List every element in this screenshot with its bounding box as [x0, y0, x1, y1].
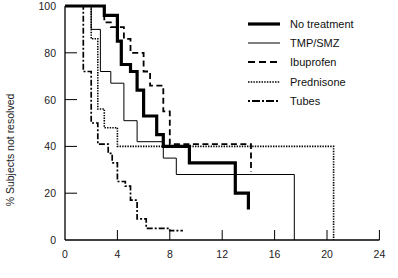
- legend-swatch-dash-dot-icon: [248, 98, 280, 104]
- legend-item-tmp-smz: TMP/SMZ: [248, 33, 354, 52]
- x-tick-label: 16: [269, 248, 281, 260]
- y-tick-label: 100: [38, 0, 56, 12]
- legend-label: Prednisone: [290, 76, 346, 88]
- x-tick-label: 20: [321, 248, 333, 260]
- legend-label: Tubes: [290, 95, 320, 107]
- y-tick-label: 40: [44, 140, 56, 152]
- legend-swatch-dotted-icon: [248, 79, 280, 85]
- legend-swatch-dashed-icon: [248, 59, 280, 65]
- legend-label: TMP/SMZ: [290, 37, 340, 49]
- y-tick-label: 80: [44, 47, 56, 59]
- x-tick-label: 12: [216, 248, 228, 260]
- y-tick-label: 0: [50, 234, 56, 246]
- x-tick-label: 8: [167, 248, 173, 260]
- legend: No treatment TMP/SMZ Ibuprofen Prednison…: [248, 14, 354, 110]
- series-ibuprofen: [65, 6, 251, 172]
- legend-swatch-thin-solid-icon: [248, 40, 280, 46]
- legend-item-prednisone: Prednisone: [248, 72, 354, 91]
- legend-item-ibuprofen: Ibuprofen: [248, 53, 354, 72]
- legend-label: No treatment: [290, 18, 354, 30]
- x-tick-label: 0: [62, 248, 68, 260]
- series-no-treatment: [65, 6, 248, 210]
- x-tick-label: 24: [374, 248, 386, 260]
- x-tick-label: 4: [114, 248, 120, 260]
- legend-swatch-thick-solid-icon: [248, 21, 280, 27]
- legend-label: Ibuprofen: [290, 56, 336, 68]
- y-tick-label: 60: [44, 94, 56, 106]
- y-axis-label: % Subjects not resolved: [4, 94, 16, 207]
- legend-item-tubes: Tubes: [248, 91, 354, 110]
- y-tick-label: 20: [44, 187, 56, 199]
- y-axis-label-container: % Subjects not resolved: [0, 0, 20, 278]
- legend-item-no-treatment: No treatment: [248, 14, 354, 33]
